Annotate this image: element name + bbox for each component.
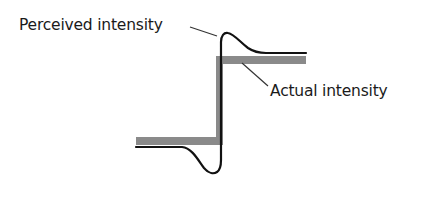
- actual-high-band: [216, 56, 306, 64]
- actual-leader-line: [242, 63, 268, 86]
- perceived-intensity-curve: [136, 33, 306, 173]
- perceived-intensity-label: Perceived intensity: [19, 16, 163, 34]
- perceived-leader-line: [190, 27, 217, 36]
- actual-low-band: [136, 137, 223, 145]
- intensity-diagram: Perceived intensity Actual intensity: [0, 0, 439, 198]
- actual-intensity-label: Actual intensity: [270, 82, 388, 100]
